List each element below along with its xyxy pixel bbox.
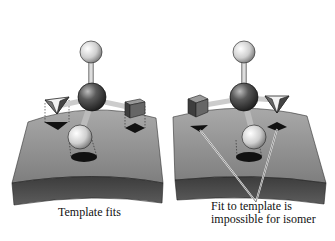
figure: Template fits Fit to template is impossi… (0, 0, 335, 241)
caption-right: Fit to template is impossible for isomer (211, 200, 316, 226)
top-sphere (80, 41, 102, 63)
caption-right-line-2: impossible for isomer (211, 213, 316, 226)
front-sphere (242, 125, 266, 149)
caption-left: Template fits (58, 206, 121, 219)
center-sphere (78, 83, 106, 111)
oval-site (236, 152, 262, 162)
oval-site (71, 152, 97, 162)
panel-right (173, 41, 326, 204)
panel-left (12, 41, 163, 205)
template-slab-side (12, 177, 163, 206)
center-sphere (230, 83, 258, 111)
top-sphere (233, 41, 255, 63)
front-sphere (68, 125, 92, 149)
